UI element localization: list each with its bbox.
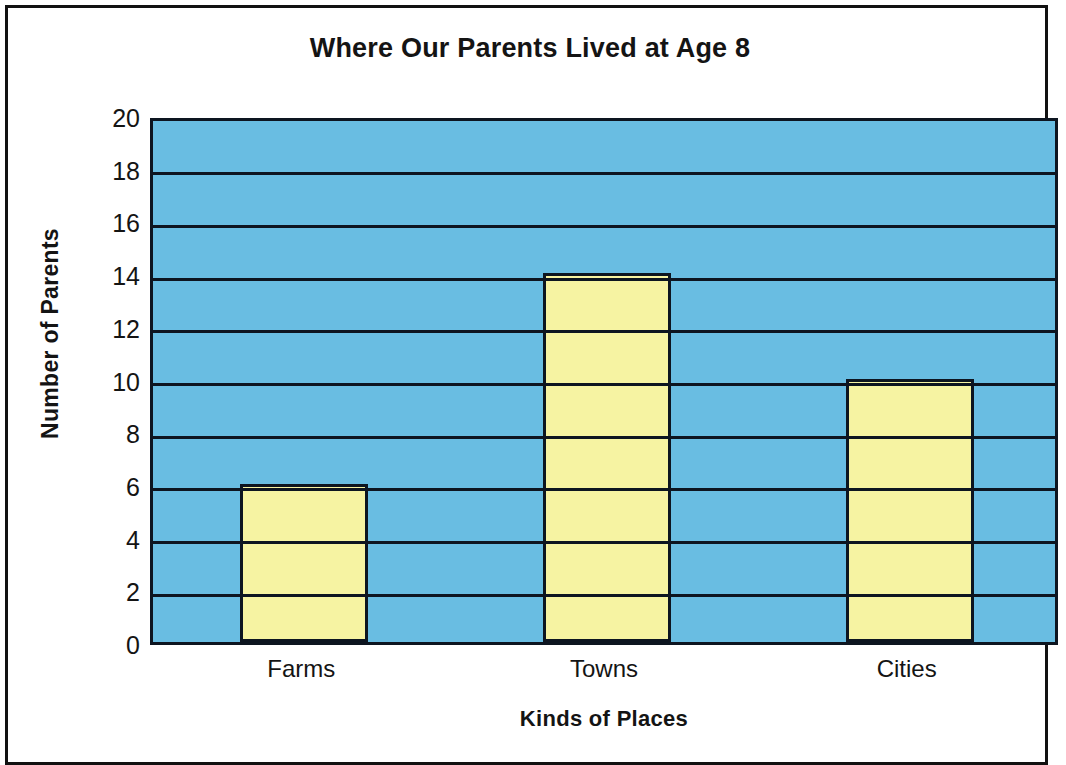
- y-tick-4: 4: [88, 525, 140, 554]
- y-tick-18: 18: [88, 156, 140, 185]
- bar-cities: [846, 379, 974, 643]
- y-tick-20: 20: [88, 104, 140, 133]
- x-tick-farms: Farms: [267, 655, 335, 683]
- bar-towns: [543, 273, 671, 642]
- y-tick-12: 12: [88, 314, 140, 343]
- gridline-16: [153, 225, 1055, 228]
- plot-area: [150, 118, 1058, 645]
- gridline-14: [153, 278, 1055, 281]
- y-axis-label: Number of Parents: [37, 204, 64, 464]
- gridline-8: [153, 436, 1055, 439]
- gridline-4: [153, 541, 1055, 544]
- x-axis-tick-labels: FarmsTownsCities: [150, 655, 1058, 691]
- y-tick-8: 8: [88, 420, 140, 449]
- bar-farms: [240, 484, 368, 642]
- gridline-6: [153, 488, 1055, 491]
- y-tick-0: 0: [88, 631, 140, 660]
- y-tick-2: 2: [88, 578, 140, 607]
- x-tick-cities: Cities: [877, 655, 937, 683]
- x-axis-label: Kinds of Places: [150, 706, 1058, 732]
- y-axis-tick-labels: 02468101214161820: [82, 118, 140, 645]
- gridline-2: [153, 594, 1055, 597]
- gridline-10: [153, 383, 1055, 386]
- y-tick-10: 10: [88, 367, 140, 396]
- gridline-12: [153, 330, 1055, 333]
- y-tick-16: 16: [88, 209, 140, 238]
- y-tick-14: 14: [88, 262, 140, 291]
- y-tick-6: 6: [88, 472, 140, 501]
- x-tick-towns: Towns: [570, 655, 638, 683]
- chart-title: Where Our Parents Lived at Age 8: [60, 33, 1000, 64]
- gridline-18: [153, 172, 1055, 175]
